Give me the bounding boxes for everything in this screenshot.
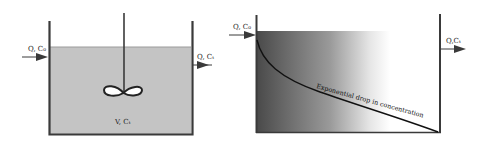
inlet-arrowhead-icon [244,31,256,39]
pfr-outlet-label: Q,Cₜ [446,37,461,45]
pfr-tank: Exponential drop in concentration [256,14,441,133]
cstr-tank: V, Cₜ [50,13,193,135]
cstr-volume-label: V, Cₜ [114,118,131,126]
pfr-gradient-fill [257,31,390,132]
cstr-inlet: Q, C₀ [22,45,48,61]
outlet-arrowhead-icon [197,61,209,69]
pfr-outlet: Q,Cₜ [441,37,466,53]
cstr-outlet-label: Q, Cₜ [197,53,214,61]
outlet-arrowhead-icon [454,45,466,53]
cstr-inlet-label: Q, C₀ [28,45,46,53]
cstr-outlet: Q, Cₜ [193,53,214,69]
inlet-arrowhead-icon [36,53,48,61]
pfr-inlet-label: Q, C₀ [233,23,251,31]
reactor-diagram: V, Cₜ Q, C₀ Q, Cₜ Exponential drop in co… [0,0,487,147]
pfr-inlet: Q, C₀ [229,23,256,39]
